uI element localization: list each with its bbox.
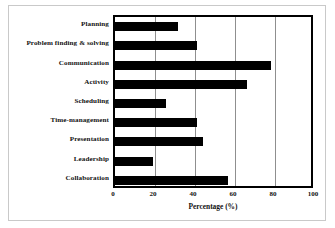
x-tick-40: 40 bbox=[190, 190, 197, 198]
category-label: Planning bbox=[81, 20, 109, 28]
bar-row bbox=[115, 75, 247, 94]
bar-row bbox=[115, 152, 153, 171]
bar-row bbox=[115, 132, 203, 151]
plot-area bbox=[113, 15, 313, 188]
category-label: Communication bbox=[59, 59, 109, 67]
figure-frame: PlanningProblem finding & solvingCommuni… bbox=[8, 5, 326, 221]
bar bbox=[115, 176, 228, 185]
bar bbox=[115, 61, 271, 70]
category-label: Problem finding & solving bbox=[26, 39, 109, 47]
bar-row bbox=[115, 17, 178, 36]
x-tick-20: 20 bbox=[150, 190, 157, 198]
bar-row bbox=[115, 113, 197, 132]
bar-row bbox=[115, 55, 271, 74]
x-tick-100: 100 bbox=[308, 190, 319, 198]
bar bbox=[115, 137, 203, 146]
bar bbox=[115, 80, 247, 89]
category-label: Time-management bbox=[50, 116, 109, 124]
bar-row bbox=[115, 36, 197, 55]
x-tick-0: 0 bbox=[111, 190, 115, 198]
bar bbox=[115, 22, 178, 31]
x-axis-title: Percentage (%) bbox=[113, 202, 313, 211]
bar-series bbox=[115, 17, 311, 186]
bar-row bbox=[115, 94, 166, 113]
bar bbox=[115, 99, 166, 108]
bar bbox=[115, 118, 197, 127]
bar bbox=[115, 41, 197, 50]
category-label: Presentation bbox=[70, 135, 109, 143]
category-label: Leadership bbox=[74, 155, 109, 163]
bar-chart: PlanningProblem finding & solvingCommuni… bbox=[9, 6, 327, 222]
category-label: Scheduling bbox=[74, 97, 109, 105]
bar-row bbox=[115, 171, 228, 190]
x-tick-60: 60 bbox=[230, 190, 237, 198]
category-label: Activity bbox=[84, 78, 109, 86]
bar bbox=[115, 157, 153, 166]
x-tick-80: 80 bbox=[270, 190, 277, 198]
category-label: Collaboration bbox=[66, 174, 109, 182]
